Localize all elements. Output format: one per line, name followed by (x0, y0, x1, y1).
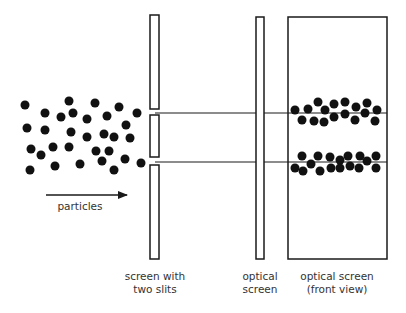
particle-dot (91, 99, 100, 108)
particle-dot (103, 112, 112, 121)
double-slit-diagram: particles screen with two slits optical … (0, 0, 406, 313)
particle-dot (51, 162, 60, 171)
slit-screen (150, 15, 159, 259)
detected-particle-dot (344, 152, 353, 161)
detected-particle-dot (314, 98, 323, 107)
detected-particle-dot (373, 106, 382, 115)
detected-particle-dot (310, 117, 319, 126)
detected-particle-dot (326, 153, 335, 162)
particle-dot (83, 133, 92, 142)
optical-screen-label-line1: optical (242, 270, 277, 282)
detected-particle-dot (355, 164, 364, 173)
particle-dot (65, 143, 74, 152)
slit-screen-label-line2: two slits (133, 283, 176, 295)
detected-particle-dot (346, 162, 355, 171)
particle-dot (76, 160, 85, 169)
particle-cloud (21, 97, 146, 175)
optical-screen-side-view (256, 17, 264, 259)
slit-screen-segment (150, 165, 159, 259)
particle-dot (37, 151, 46, 160)
detected-particle-dot (298, 152, 307, 161)
slit-screen-label-line1: screen with (125, 270, 186, 282)
detected-particle-dot (321, 106, 330, 115)
particle-dot (115, 103, 124, 112)
particle-dot (21, 101, 30, 110)
particle-dot (67, 128, 76, 137)
particle-dot (133, 109, 142, 118)
particle-dot (23, 124, 32, 133)
particle-dot (49, 143, 58, 152)
detected-particle-dot (341, 110, 350, 119)
detected-particle-dot (352, 103, 361, 112)
detected-particle-dot (327, 164, 336, 173)
particle-dot (92, 147, 101, 156)
detected-particle-dot (330, 100, 339, 109)
detected-particle-dot (336, 156, 345, 165)
optical-screen-front-view (288, 17, 387, 259)
detected-particle-dot (298, 116, 307, 125)
particle-dot (57, 113, 66, 122)
particle-dot (100, 130, 109, 139)
particle-dot (41, 109, 50, 118)
particle-dot (110, 133, 119, 142)
detection-pattern (291, 98, 382, 176)
front-view-label-line1: optical screen (300, 270, 374, 282)
particle-dot (69, 109, 78, 118)
detected-particle-dot (291, 106, 300, 115)
detected-particle-dot (371, 117, 380, 126)
detected-particle-dot (320, 118, 329, 127)
particle-dot (41, 126, 50, 135)
detected-particle-dot (330, 113, 339, 122)
particle-dot (121, 155, 130, 164)
particle-dot (110, 166, 119, 175)
detected-particle-dot (361, 109, 370, 118)
particle-dot (26, 166, 35, 175)
particle-dot (105, 147, 114, 156)
detected-particle-dot (307, 160, 316, 169)
particle-dot (98, 157, 107, 166)
front-view-label-line2: (front view) (307, 283, 368, 295)
particle-dot (126, 134, 135, 143)
detected-particle-dot (299, 167, 308, 176)
slit-screen-segment (150, 115, 159, 157)
detected-particle-dot (291, 164, 300, 173)
particle-dot (65, 97, 74, 106)
detected-particle-dot (341, 98, 350, 107)
detected-particle-dot (372, 164, 381, 173)
detected-particle-dot (314, 152, 323, 161)
particle-dot (83, 115, 92, 124)
particle-dot (137, 159, 146, 168)
particle-dot (122, 121, 131, 130)
detected-particle-dot (351, 116, 360, 125)
detected-particle-dot (336, 164, 345, 173)
detected-particle-dot (363, 157, 372, 166)
detected-particle-dot (304, 105, 313, 114)
detected-particle-dot (316, 167, 325, 176)
detected-particle-dot (363, 99, 372, 108)
detected-particle-dot (372, 152, 381, 161)
particles-label: particles (57, 200, 102, 212)
slit-screen-segment (150, 15, 159, 109)
particle-dot (27, 145, 36, 154)
optical-screen-label-line2: screen (243, 283, 278, 295)
